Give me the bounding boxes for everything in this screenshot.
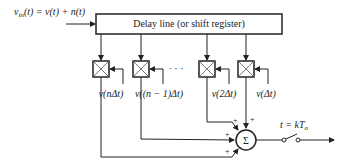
weight-label-n: v(nΔt)	[99, 88, 124, 100]
switch-terminal	[296, 138, 300, 142]
input-label: vin(t) = v(t) + n(t)	[14, 6, 86, 19]
multiplier-4	[238, 61, 254, 77]
ellipsis: · · ·	[169, 63, 184, 74]
plus-sign: +	[250, 115, 255, 124]
weight-label-n-minus-1: v((n − 1)Δt)	[135, 88, 184, 100]
plus-sign: +	[225, 147, 230, 156]
weight-label-1: v(Δt)	[256, 88, 276, 100]
multiplier-2	[133, 61, 149, 77]
tap-lines	[101, 34, 246, 60]
plus-sign: +	[225, 130, 230, 139]
switch-terminal	[282, 138, 286, 142]
delay-line-label: Delay line (or shift register)	[133, 18, 245, 30]
weight-label-2: v(2Δt)	[212, 88, 237, 100]
sample-time-label: t = kTo	[280, 119, 309, 132]
plus-sign: +	[233, 116, 238, 125]
summer-symbol: Σ	[243, 135, 249, 146]
multiplier-1	[93, 61, 109, 77]
matched-filter-diagram: vin(t) = v(t) + n(t) Delay line (or shif…	[0, 0, 339, 165]
sampling-switch	[286, 134, 297, 139]
multiplier-3	[199, 61, 215, 77]
